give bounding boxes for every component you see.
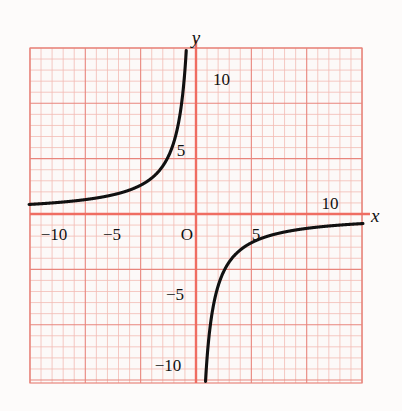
y-tick-label--10: −10 <box>155 356 182 375</box>
coordinate-plane: x y O −10 −5 5 10 10 5 −5 −10 <box>0 0 402 411</box>
y-tick-label-10: 10 <box>213 70 230 89</box>
y-tick-label-5: 5 <box>177 141 186 160</box>
y-axis-label: y <box>190 27 201 48</box>
graph-figure: x y O −10 −5 5 10 10 5 −5 −10 <box>0 0 402 411</box>
origin-label: O <box>181 225 193 244</box>
x-tick-label-10: 10 <box>322 194 339 213</box>
x-tick-label--10: −10 <box>41 225 68 244</box>
x-tick-label--5: −5 <box>103 225 121 244</box>
x-axis-label: x <box>370 205 380 226</box>
x-tick-label-5: 5 <box>252 225 261 244</box>
y-tick-label--5: −5 <box>166 285 184 304</box>
